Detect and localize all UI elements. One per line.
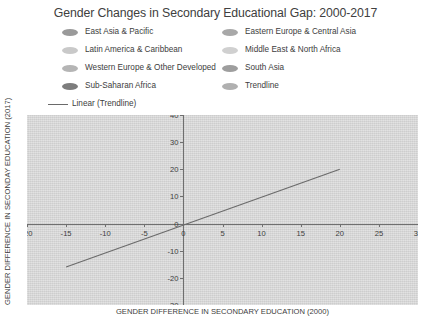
legend-item-label: Western Europe & Other Developed: [85, 64, 216, 72]
legend-ellipse-marker: [62, 29, 78, 36]
legend-item-label: Sub-Saharan Africa: [85, 82, 156, 90]
legend-ellipse-marker: [222, 47, 238, 54]
legend-item[interactable]: East Asia & Pacific: [62, 28, 153, 36]
trendline-series: [27, 115, 418, 305]
y-axis-title: GENDER DIFFERENCE IN SECONDAY EDUCATION …: [0, 115, 15, 305]
legend-item-label: Latin America & Caribbean: [85, 46, 182, 54]
legend-item-label: South Asia: [245, 64, 284, 72]
legend-ellipse-marker: [62, 47, 78, 54]
legend-item[interactable]: Linear (Trendline): [48, 100, 136, 108]
legend-item[interactable]: Eastern Europe & Central Asia: [222, 28, 356, 36]
chart-title: Gender Changes in Secondary Educational …: [0, 6, 431, 20]
legend-item-label: East Asia & Pacific: [85, 28, 153, 36]
legend-line-marker: [48, 104, 68, 105]
legend-item[interactable]: Western Europe & Other Developed: [62, 64, 216, 72]
legend-item[interactable]: Trendline: [222, 82, 279, 90]
legend-item-label: Middle East & North Africa: [245, 46, 341, 54]
legend-item-label: Trendline: [245, 82, 279, 90]
legend-item[interactable]: Sub-Saharan Africa: [62, 82, 156, 90]
legend-item[interactable]: Latin America & Caribbean: [62, 46, 182, 54]
legend-item-label: Eastern Europe & Central Asia: [245, 28, 356, 36]
legend-ellipse-marker: [62, 65, 78, 72]
legend-item[interactable]: Middle East & North Africa: [222, 46, 341, 54]
legend-ellipse-marker: [222, 65, 238, 72]
chart-legend: East Asia & PacificLatin America & Carib…: [0, 28, 431, 103]
legend-item-label: Linear (Trendline): [72, 100, 136, 108]
legend-ellipse-marker: [222, 83, 238, 90]
legend-item[interactable]: South Asia: [222, 64, 284, 72]
legend-ellipse-marker: [222, 29, 238, 36]
legend-ellipse-marker: [62, 83, 78, 90]
x-axis-title: GENDER DIFFERENCE IN SECONDARY EDUCATION…: [27, 307, 418, 316]
plot-area: -20-15-10-5051015202530-30-20-1001020304…: [27, 115, 418, 305]
trendline-line: [66, 169, 340, 267]
